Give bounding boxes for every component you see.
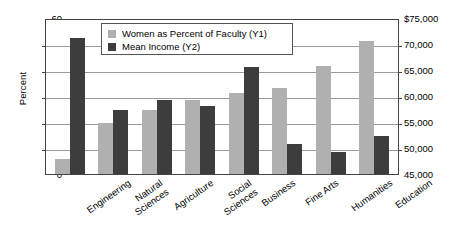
- x-axis-category-labels: EngineeringNaturalSciencesAgricultureSoc…: [45, 178, 399, 230]
- y2-tickmark-65000: [398, 72, 402, 73]
- bar-mean-income: [331, 152, 346, 174]
- x-axis-label-line: Humanities: [350, 178, 395, 214]
- chart-legend: Women as Percent of Faculty (Y1) Mean In…: [101, 23, 293, 55]
- x-axis-label-line: Agriculture: [173, 178, 216, 213]
- legend-label-mean-income: Mean Income (Y2): [122, 42, 200, 52]
- y2-tick-55000: 55,000: [404, 118, 433, 128]
- y2-tickmark-70000: [398, 46, 402, 47]
- bar-mean-income: [70, 38, 85, 174]
- bar-women-percent-faculty: [359, 41, 374, 174]
- bar-mean-income: [374, 136, 389, 175]
- x-axis-label-business: Business: [260, 178, 298, 209]
- y2-tick-60000: 60,000: [404, 92, 433, 102]
- bar-women-percent-faculty: [185, 100, 200, 174]
- bar-women-percent-faculty: [55, 159, 70, 174]
- bar-group: [309, 20, 353, 174]
- y2-tick-75000: $75,000: [404, 14, 438, 24]
- legend-item-mean-income: Mean Income (Y2): [108, 40, 287, 53]
- x-axis-label-natural-sciences: NaturalSciences: [127, 178, 171, 217]
- bar-mean-income: [244, 67, 259, 174]
- x-axis-label-line: Engineering: [85, 178, 133, 216]
- bar-mean-income: [113, 110, 128, 174]
- bar-women-percent-faculty: [142, 110, 157, 174]
- legend-label-women-percent-faculty: Women as Percent of Faculty (Y1): [122, 29, 267, 39]
- legend-swatch-light: [108, 30, 116, 38]
- y2-tickmark-60000: [398, 98, 402, 99]
- bar-group: [353, 20, 397, 174]
- bar-mean-income: [200, 106, 215, 174]
- x-axis-label-social-sciences: SocialSciences: [216, 178, 260, 217]
- legend-swatch-dark: [108, 43, 116, 51]
- x-axis-label-line: Business: [260, 178, 298, 209]
- x-axis-label-humanities: Humanities: [350, 178, 395, 214]
- bar-women-percent-faculty: [272, 88, 287, 174]
- bar-group: [48, 20, 92, 174]
- x-axis-label-fine-arts: Fine Arts: [304, 178, 341, 208]
- bar-women-percent-faculty: [98, 123, 113, 174]
- x-axis-label-line: Fine Arts: [304, 178, 341, 208]
- bar-mean-income: [157, 100, 172, 174]
- bar-mean-income: [287, 144, 302, 174]
- bar-women-percent-faculty: [316, 66, 331, 174]
- y2-tickmark-55000: [398, 124, 402, 125]
- y2-tickmark-50000: [398, 150, 402, 151]
- x-axis-label-engineering: Engineering: [85, 178, 133, 216]
- bar-women-percent-faculty: [229, 93, 244, 174]
- x-axis-label-agriculture: Agriculture: [173, 178, 216, 213]
- y2-tick-70000: 70,000: [404, 40, 433, 50]
- legend-item-women-percent-faculty: Women as Percent of Faculty (Y1): [108, 27, 287, 40]
- grouped-bar-chart: Percent 60 50 40 30 20 10 0 $75,000 70,0…: [0, 0, 463, 230]
- y2-tick-65000: 65,000: [404, 66, 433, 76]
- y2-tick-50000: 50,000: [404, 144, 433, 154]
